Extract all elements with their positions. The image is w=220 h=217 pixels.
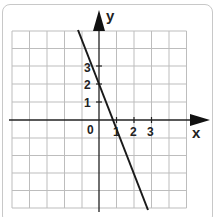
axes [9, 28, 196, 212]
coordinate-plane: y x 0 1 2 3 1 2 3 [0, 0, 220, 217]
y-tick-label-1: 1 [84, 96, 91, 110]
x-axis-label: x [192, 124, 201, 141]
y-tick-label-2: 2 [84, 78, 91, 92]
origin-label: 0 [87, 123, 94, 137]
ticks [96, 66, 152, 123]
y-axis-arrow-icon [93, 10, 105, 31]
x-tick-label-3: 3 [147, 125, 154, 139]
x-tick-label-2: 2 [130, 125, 137, 139]
y-axis-label: y [106, 7, 115, 24]
